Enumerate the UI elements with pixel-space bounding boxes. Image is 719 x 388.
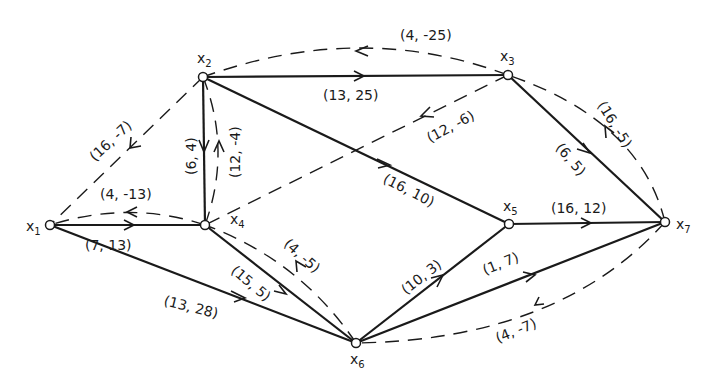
arrow-icon <box>535 297 544 305</box>
edge-x4-x6 <box>205 225 356 343</box>
node-x4 <box>201 221 210 230</box>
node-label-x2: x2 <box>197 50 212 69</box>
edge-label-x4-x1: (4, -13) <box>100 186 152 202</box>
edge-x5-x7 <box>509 222 665 224</box>
edge-label-x4-x6: (15, 5) <box>228 262 274 304</box>
node-x3 <box>504 71 513 80</box>
edge-label-x2-x1: (16, -7) <box>86 117 135 164</box>
arrow-icon <box>421 107 434 117</box>
node-x1 <box>46 221 55 230</box>
edge-label-x2-x4: (6, 4) <box>183 137 199 175</box>
arrow-icon <box>577 143 590 153</box>
node-label-x4: x4 <box>230 211 245 230</box>
edge-label-x3-x4: (12, -6) <box>424 107 477 145</box>
node-x7 <box>661 218 670 227</box>
edge-label-x4-x2: (12, -4) <box>227 126 243 178</box>
edge-label-x6-x7: (1, 7) <box>480 249 521 278</box>
network-diagram: (7, 13) (13, 28) (13, 25) (6, 4) (16, 10… <box>0 0 719 388</box>
arrow-icon <box>214 141 224 152</box>
edge-x2-x1 <box>50 77 203 225</box>
node-label-x3: x3 <box>500 48 515 67</box>
node-x2 <box>199 73 208 82</box>
edge-label-x7-x3: (16, -5) <box>594 98 635 150</box>
node-label-x6: x6 <box>350 351 365 370</box>
edge-x3-x2 <box>203 48 508 77</box>
node-label-x1: x1 <box>26 218 41 237</box>
node-label-x7: x7 <box>676 216 691 235</box>
edge-x4-x1 <box>50 213 205 226</box>
node-x6 <box>352 339 361 348</box>
edge-label-x1-x6: (13, 28) <box>162 292 220 321</box>
node-x5 <box>505 220 514 229</box>
edge-label-x7-x6: (4, -7) <box>493 315 539 346</box>
edge-label-x5-x7: (16, 12) <box>551 200 606 216</box>
edge-label-x3-x2: (4, -25) <box>400 27 452 43</box>
edge-label-x2-x3: (13, 25) <box>323 87 378 103</box>
edge-x2-x3 <box>203 75 508 77</box>
edge-label-x1-x4: (7, 13) <box>85 237 132 253</box>
node-label-x5: x5 <box>503 198 518 217</box>
edge-x6-x5 <box>356 224 509 343</box>
